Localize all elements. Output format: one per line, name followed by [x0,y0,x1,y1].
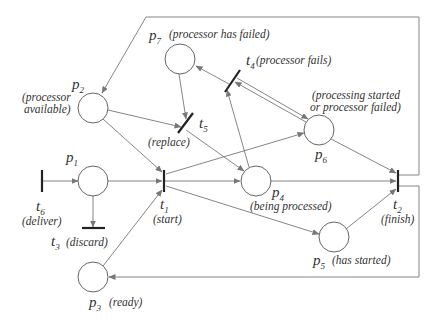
arc-p6-t2 [331,139,396,173]
desc-t6: (deliver) [22,215,62,228]
desc-t1: (start) [153,213,182,226]
desc-p5: (has started) [332,254,391,267]
place-p1[interactable] [78,166,108,196]
place-p5[interactable] [319,222,349,252]
desc-t2: (finish) [381,213,414,226]
arc-p4-t4 [227,90,249,167]
arc-p6-t4 [235,82,306,122]
label-t3: t3 [51,233,60,252]
desc-p4: (being processed) [250,200,332,213]
arc-t4-p7 [196,66,229,84]
desc-t4: (processor fails) [256,54,331,67]
label-t5: t5 [199,115,208,134]
label-p5: p5 [312,252,326,271]
label-p3: p3 [88,294,102,313]
label-p6: p6 [314,146,328,165]
desc-p2-line2: available) [24,103,71,116]
arc-p2-t5 [108,110,181,127]
arc-p7-t5 [179,74,186,119]
label-t4: t4 [246,52,255,71]
transition-t4[interactable] [225,70,240,92]
desc-t3: (discard) [66,236,108,249]
desc-t5: (replace) [148,136,190,149]
desc-p3: (ready) [109,296,143,309]
place-p6[interactable] [304,115,334,145]
desc-p7: (processor has failed) [169,28,270,41]
label-p7: p7 [148,27,162,46]
desc-p6-line2: or processor failed) [310,101,401,114]
label-p1: p1 [65,149,78,168]
place-p4[interactable] [241,166,271,196]
places [78,44,349,292]
place-p7[interactable] [165,44,195,74]
arc-p3-t1 [103,190,162,266]
place-p2[interactable] [78,93,108,123]
place-p3[interactable] [78,262,108,292]
arc-t5-p4 [186,130,244,171]
arc-t4-p6 [237,78,308,119]
label-p2: p2 [71,76,85,95]
petri-net-diagram: p2 (processor available) p7 (processor h… [0,0,439,329]
